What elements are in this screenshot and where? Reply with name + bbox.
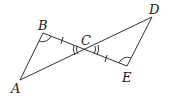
label-C: C: [81, 33, 91, 48]
label-D: D: [148, 2, 160, 17]
segment-DE: [127, 17, 152, 66]
label-A: A: [10, 81, 20, 96]
label-E: E: [121, 70, 132, 85]
angle-C-left-arc-1: [73, 45, 75, 55]
geometry-diagram: A B C D E: [0, 0, 171, 98]
angle-C-right-arc-2: [94, 46, 96, 54]
segment-AB: [20, 33, 43, 80]
angle-C-right-arc-1: [97, 45, 99, 55]
label-B: B: [37, 18, 48, 33]
